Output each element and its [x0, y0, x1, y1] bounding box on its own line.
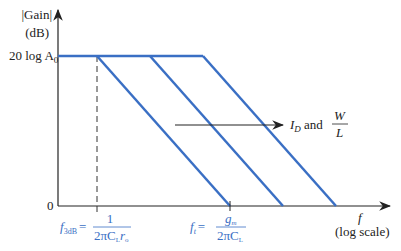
- svg-text:f3dB=: f3dB=: [60, 219, 86, 236]
- y-tick-0: 0: [47, 198, 54, 213]
- ft-annotation: ft= gm 2πCL: [190, 211, 246, 244]
- svg-text:1: 1: [107, 211, 114, 226]
- x-axis-label-f: f: [358, 210, 364, 225]
- y-tick-20logA0: 20 log A0: [9, 48, 59, 65]
- y-axis-label-1: |Gain|: [22, 7, 52, 22]
- arrow-label-W: W: [334, 108, 346, 123]
- rolloff-line-1: [97, 56, 230, 206]
- arrow-label: ID and: [289, 117, 323, 134]
- svg-text:2πCL: 2πCL: [217, 228, 243, 244]
- arrow-label-L: L: [335, 125, 343, 140]
- svg-text:2πCLro: 2πCLro: [94, 228, 129, 244]
- rolloff-line-2: [150, 56, 283, 206]
- svg-text:ft=: ft=: [190, 219, 205, 236]
- f3db-annotation: f3dB= 1 2πCLro: [60, 211, 131, 244]
- bode-plot: |Gain| (dB) 20 log A0 0 f (log scale) ID…: [0, 0, 401, 251]
- x-axis-label-scale: (log scale): [335, 224, 390, 239]
- svg-text:gm: gm: [225, 211, 237, 227]
- y-axis-label-2: (dB): [25, 25, 49, 40]
